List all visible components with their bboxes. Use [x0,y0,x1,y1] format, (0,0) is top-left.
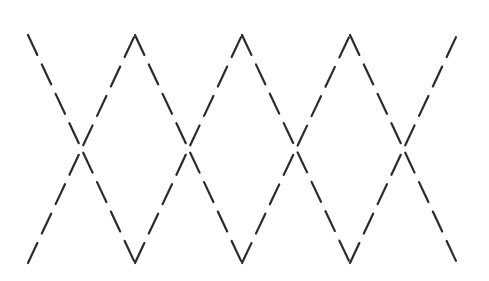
dashed-diamond-pattern [0,0,489,281]
